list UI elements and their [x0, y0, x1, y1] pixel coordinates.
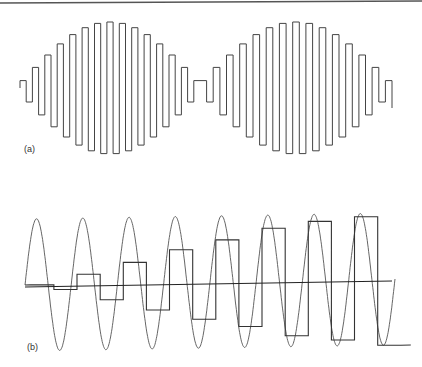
top-rule — [0, 1, 422, 3]
panel-b-zero-axis — [25, 281, 392, 287]
panel-a-label: (a) — [24, 144, 35, 154]
panel-b-staircase — [25, 217, 411, 346]
panel-b-label: (b) — [27, 342, 38, 352]
figure: (a) (b) — [0, 0, 422, 367]
figure-canvas — [0, 0, 422, 367]
panel-a-square-wave — [20, 22, 392, 154]
